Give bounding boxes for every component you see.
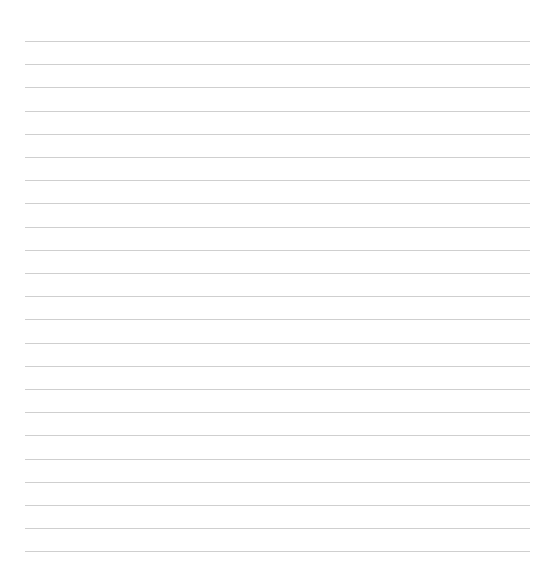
ruled-line <box>25 389 530 390</box>
ruled-line <box>25 319 530 320</box>
ruled-line <box>25 87 530 88</box>
ruled-line <box>25 551 530 552</box>
ruled-line <box>25 41 530 42</box>
ruled-line <box>25 435 530 436</box>
ruled-line <box>25 482 530 483</box>
ruled-line <box>25 296 530 297</box>
ruled-line <box>25 459 530 460</box>
ruled-line <box>25 505 530 506</box>
ruled-line <box>25 343 530 344</box>
ruled-line <box>25 366 530 367</box>
ruled-line <box>25 412 530 413</box>
ruled-line <box>25 180 530 181</box>
ruled-line <box>25 250 530 251</box>
ruled-line <box>25 111 530 112</box>
ruled-line <box>25 64 530 65</box>
ruled-line <box>25 528 530 529</box>
ruled-line <box>25 157 530 158</box>
ruled-line <box>25 134 530 135</box>
ruled-line <box>25 273 530 274</box>
ruled-line <box>25 203 530 204</box>
ruled-line <box>25 227 530 228</box>
ruled-paper-sheet <box>0 0 550 582</box>
